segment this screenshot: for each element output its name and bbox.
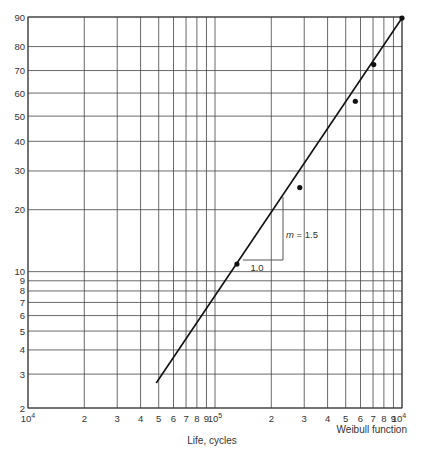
x-tick-label: 7 [370, 413, 375, 424]
slope-triangle-lines [243, 197, 283, 260]
weibull-chart: 23456789102030405060708090 1042345678910… [0, 0, 424, 459]
chart-caption: Weibull function [337, 424, 407, 435]
slope-run-label: 1.0 [250, 262, 263, 273]
y-tick-label: 70 [14, 65, 25, 76]
x-tick-label: 3 [302, 413, 307, 424]
y-tick-label: 7 [20, 297, 25, 308]
x-tick-label: 3 [115, 413, 120, 424]
y-tick-label: 80 [14, 41, 25, 52]
slope-triangle: 1.0m = 1.5 [243, 197, 318, 273]
x-tick-label: 2 [82, 413, 87, 424]
y-tick-label: 30 [14, 165, 25, 176]
x-axis-label: Life, cycles [187, 435, 236, 446]
y-tick-label: 2 [20, 403, 25, 414]
x-tick-label: 104 [21, 412, 36, 424]
y-axis-ticks: 23456789102030405060708090 [14, 12, 25, 414]
x-tick-label: 8 [194, 413, 199, 424]
x-tick-label: 6 [358, 413, 363, 424]
y-tick-label: 20 [14, 204, 25, 215]
data-point [371, 62, 376, 67]
x-tick-label: 7 [183, 413, 188, 424]
y-tick-label: 10 [14, 266, 25, 277]
x-axis-ticks: 1042345678910523456789104 [21, 412, 407, 424]
data-point [234, 262, 239, 267]
data-point [297, 185, 302, 190]
x-tick-label: 105 [208, 412, 223, 424]
slope-rise-label: m = 1.5 [286, 229, 318, 240]
x-tick-label: 8 [381, 413, 386, 424]
x-tick-label: 4 [325, 413, 330, 424]
y-tick-label: 8 [20, 285, 25, 296]
data-point [399, 15, 404, 20]
x-tick-label: 2 [269, 413, 274, 424]
x-tick-label: 6 [171, 413, 176, 424]
grid-lines [28, 17, 402, 408]
y-tick-label: 60 [14, 88, 25, 99]
x-tick-label: 104 [392, 412, 407, 424]
y-tick-label: 4 [20, 344, 25, 355]
y-tick-label: 40 [14, 136, 25, 147]
y-tick-label: 50 [14, 111, 25, 122]
y-tick-label: 6 [20, 310, 25, 321]
x-tick-label: 5 [156, 413, 161, 424]
data-point [353, 99, 358, 104]
y-tick-label: 90 [14, 12, 25, 23]
x-tick-label: 5 [343, 413, 348, 424]
fit-line [156, 18, 402, 383]
y-tick-label: 5 [20, 326, 25, 337]
x-tick-label: 4 [138, 413, 143, 424]
y-tick-label: 3 [20, 369, 25, 380]
